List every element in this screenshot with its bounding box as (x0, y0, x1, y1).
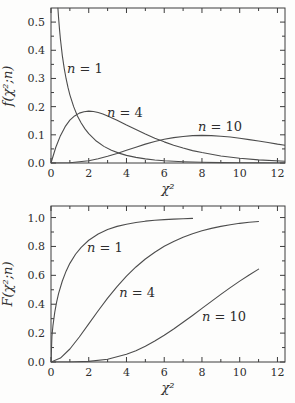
y-tick-label: 1.0 (28, 212, 46, 225)
y-tick-label: 0.8 (28, 240, 46, 253)
x-tick-label: 2 (85, 167, 92, 180)
x-axis-label: χ² (160, 181, 174, 196)
y-tick-label: 0.0 (28, 356, 46, 369)
x-tick-label: 4 (123, 167, 130, 180)
y-tick-label: 0.4 (28, 298, 46, 311)
curve-label-n4: n = 4 (119, 285, 155, 300)
curve-label-n10: n = 10 (198, 119, 242, 134)
x-tick-label: 12 (270, 366, 284, 379)
y-tick-label: 0.2 (28, 101, 46, 114)
chi-square-distribution-figure: 0246810120.00.10.20.30.40.5χ²f(χ²;n)n = … (0, 0, 295, 403)
x-tick-label: 12 (270, 167, 284, 180)
x-tick-label: 10 (233, 167, 247, 180)
y-tick-label: 0.0 (28, 157, 46, 170)
x-tick-label: 2 (85, 366, 92, 379)
x-tick-label: 6 (161, 366, 168, 379)
y-tick-label: 0.3 (28, 72, 46, 85)
y-tick-label: 0.5 (28, 16, 46, 29)
y-tick-label: 0.2 (28, 327, 46, 340)
y-axis-label: F(χ²;n) (0, 261, 15, 307)
y-tick-label: 0.1 (28, 129, 46, 142)
curve-label-n4: n = 4 (107, 105, 143, 120)
cdf-chart: 0246810120.00.20.40.60.81.0χ²F(χ²;n)n = … (0, 200, 295, 403)
x-tick-label: 8 (198, 366, 205, 379)
axes-frame (51, 206, 285, 362)
x-tick-label: 0 (48, 167, 55, 180)
x-tick-label: 10 (233, 366, 247, 379)
pdf-chart: 0246810120.00.10.20.30.40.5χ²f(χ²;n)n = … (0, 0, 295, 200)
x-axis-label: χ² (160, 380, 174, 395)
curve-label-n1: n = 1 (67, 61, 103, 76)
y-tick-label: 0.4 (28, 44, 46, 57)
x-tick-label: 6 (161, 167, 168, 180)
curve-label-n1: n = 1 (87, 240, 123, 255)
y-tick-label: 0.6 (28, 269, 46, 282)
x-tick-label: 0 (48, 366, 55, 379)
curve-n4 (51, 111, 285, 163)
curve-label-n10: n = 10 (202, 309, 246, 324)
y-axis-label: f(χ²;n) (0, 66, 15, 108)
x-tick-label: 4 (123, 366, 130, 379)
x-tick-label: 8 (198, 167, 205, 180)
